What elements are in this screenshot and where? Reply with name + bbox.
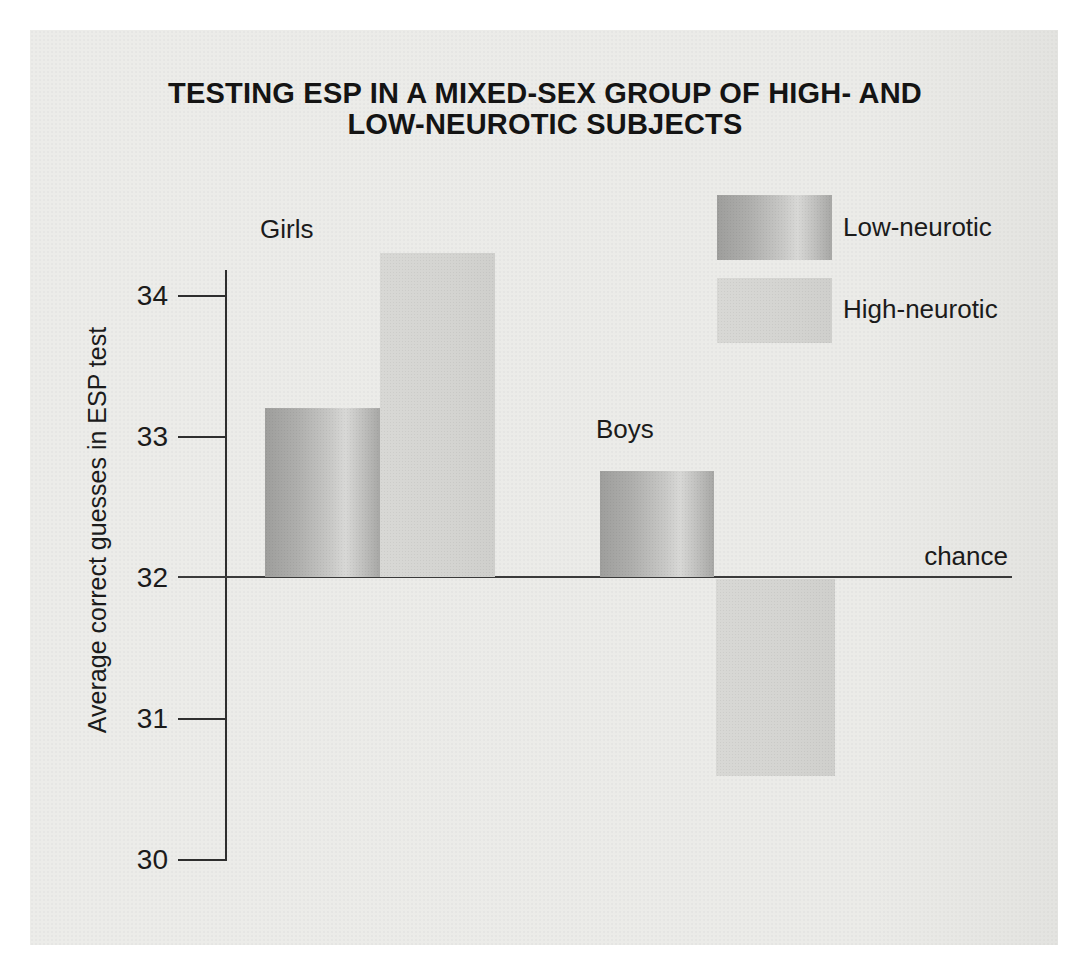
y-tick-label-30: 30 — [108, 845, 168, 875]
chart-title-line1: TESTING ESP IN A MIXED-SEX GROUP OF HIGH… — [65, 78, 1025, 109]
y-axis-title: Average correct guesses in ESP test — [83, 327, 112, 733]
figure: TESTING ESP IN A MIXED-SEX GROUP OF HIGH… — [0, 0, 1090, 977]
group-label-boys: Boys — [596, 414, 654, 445]
chart-title: TESTING ESP IN A MIXED-SEX GROUP OF HIGH… — [65, 78, 1025, 140]
legend-swatch-high-neurotic — [717, 278, 832, 343]
y-tick-label-31: 31 — [108, 704, 168, 734]
y-tick-33 — [178, 436, 227, 438]
legend-swatch-low-neurotic — [717, 195, 832, 260]
bar-boys-low-neurotic — [600, 471, 714, 577]
y-tick-31 — [178, 718, 227, 720]
chance-label: chance — [848, 541, 1008, 572]
y-tick-label-32: 32 — [108, 563, 168, 593]
bar-boys-high-neurotic — [716, 579, 835, 776]
legend-label-high-neurotic: High-neurotic — [843, 294, 998, 325]
group-label-girls: Girls — [260, 214, 313, 245]
y-tick-34 — [178, 295, 227, 297]
bar-girls-low-neurotic — [265, 408, 380, 577]
legend-label-low-neurotic: Low-neurotic — [843, 212, 992, 243]
y-tick-label-33: 33 — [108, 422, 168, 452]
y-axis-line — [225, 270, 227, 861]
chart-panel — [30, 30, 1058, 945]
y-tick-30 — [178, 859, 227, 861]
chart-title-line2: LOW-NEUROTIC SUBJECTS — [65, 109, 1025, 140]
bar-girls-high-neurotic — [380, 253, 495, 577]
y-tick-label-34: 34 — [108, 281, 168, 311]
